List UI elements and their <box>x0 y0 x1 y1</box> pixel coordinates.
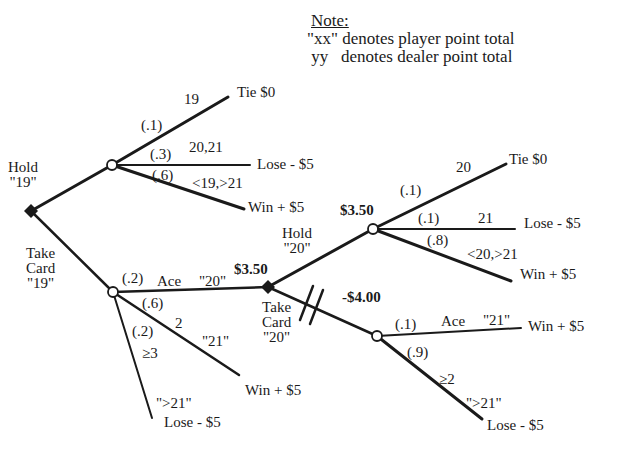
hold19-outcome-win: Win + $5 <box>248 200 304 215</box>
hold19-prob-win: (.6) <box>152 168 173 183</box>
chance-node-hold20 <box>368 224 378 234</box>
take19-prob-ace: (.2) <box>122 271 143 286</box>
hold20-prob-lose: (.1) <box>418 211 439 226</box>
decision-node-20 <box>261 280 275 294</box>
take19-outcome-two: Win + $5 <box>245 383 301 398</box>
hold20-outcome-tie: Tie $0 <box>509 152 547 167</box>
take19-prob-three-plus: (.2) <box>132 324 153 339</box>
take-text: Take <box>262 300 291 315</box>
take20-value: -$4.00 <box>342 290 381 305</box>
take20-card-ace: Ace <box>441 314 465 329</box>
hold-total: "20" <box>282 241 312 256</box>
take19-card-three-plus: ≥3 <box>142 346 158 361</box>
take20-outcome-ace: Win + $5 <box>528 319 584 334</box>
take-total: "19" <box>26 276 55 291</box>
take20-prob-ace: (.1) <box>395 317 416 332</box>
note-line-player: "xx" denotes player point total <box>307 30 514 48</box>
take19-player-three-plus: ">21" <box>156 396 192 411</box>
take20-card-two-plus: ≥2 <box>439 372 455 387</box>
hold19-dealer-tie: 19 <box>184 92 199 107</box>
hold19-prob-lose: (.3) <box>150 147 171 162</box>
hold19-outcome-tie: Tie $0 <box>237 85 275 100</box>
hold-text: Hold <box>282 226 312 241</box>
hold20-prob-tie: (.1) <box>400 183 421 198</box>
legend-note: Note: "xx" denotes player point total yy… <box>307 12 514 66</box>
take19-card-ace: Ace <box>157 274 181 289</box>
chance-node-take19 <box>108 287 118 297</box>
take20-player-ace: "21" <box>483 313 510 328</box>
chance-node-take20 <box>372 331 382 341</box>
card-text: Card <box>26 261 55 276</box>
branch-hold-19 <box>31 165 112 211</box>
hold20-prob-win: (.8) <box>427 233 448 248</box>
note-title: Note: <box>311 12 514 30</box>
hold19-prob-tie: (.1) <box>141 118 162 133</box>
hold20-dealer-lose: 21 <box>478 211 493 226</box>
hold19-dealer-win: <19,>21 <box>192 176 243 191</box>
take19-player-ace: "20" <box>199 274 226 289</box>
take20-prob-two-plus: (.9) <box>407 345 428 360</box>
decision20-take-label: Take Card "20" <box>262 300 291 345</box>
hold20-dealer-win: <20,>21 <box>467 247 518 262</box>
take20-player-two-plus: ">21" <box>466 396 502 411</box>
card-text: Card <box>262 315 291 330</box>
take-total: "20" <box>262 330 291 345</box>
take19-outcome-three-plus: Lose - $5 <box>164 415 221 430</box>
hold19-dealer-lose: 20,21 <box>189 140 223 155</box>
take19-card-two: 2 <box>175 316 183 331</box>
hold-text: Hold <box>8 160 38 175</box>
take-text: Take <box>26 246 55 261</box>
chance-node-hold19 <box>107 160 117 170</box>
branch-take19-ace <box>113 287 268 292</box>
decision20-hold-label: Hold "20" <box>282 226 312 256</box>
take19-player-two: "21" <box>202 334 229 349</box>
hold20-outcome-lose: Lose - $5 <box>524 216 581 231</box>
hold-total: "19" <box>8 175 38 190</box>
take19-prob-two: (.6) <box>142 296 163 311</box>
hold20-value: $3.50 <box>340 203 374 218</box>
decision19-take-label: Take Card "19" <box>26 246 55 291</box>
take20-outcome-two-plus: Lose - $5 <box>487 418 544 433</box>
hold19-outcome-lose: Lose - $5 <box>257 157 314 172</box>
hold20-dealer-tie: 20 <box>456 160 471 175</box>
note-line-dealer: yy denotes dealer point total <box>307 48 514 66</box>
hold20-outcome-win: Win + $5 <box>520 267 576 282</box>
decision20-value: $3.50 <box>234 262 268 277</box>
decision19-hold-label: Hold "19" <box>8 160 38 190</box>
